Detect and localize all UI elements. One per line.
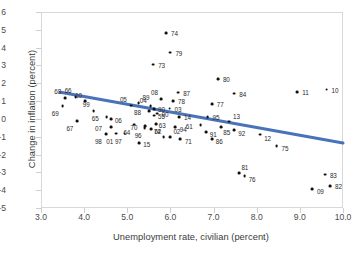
data-point-label: 99 [83, 101, 90, 108]
data-point-label: 85 [223, 128, 230, 135]
data-point [162, 136, 165, 139]
data-point-label: 67 [66, 125, 73, 132]
data-point-label: 01 [106, 137, 113, 144]
data-point [92, 110, 95, 113]
data-point-label: 61 [186, 123, 193, 130]
data-point [144, 125, 147, 128]
data-point [149, 105, 152, 108]
data-point [329, 185, 332, 188]
data-point-label: 70 [131, 124, 138, 131]
data-point-label: 91 [210, 130, 217, 137]
data-point-label: 08 [151, 88, 158, 95]
data-point-label: 78 [178, 97, 185, 104]
data-point [259, 133, 262, 136]
data-point [105, 116, 108, 119]
data-point [64, 97, 67, 100]
data-point [109, 118, 112, 121]
data-point [220, 126, 223, 129]
data-point-label: 65 [92, 115, 99, 122]
data-point [275, 145, 278, 148]
data-point-label: 98 [95, 138, 102, 145]
data-point-label: 87 [183, 89, 190, 96]
data-point-label: 11 [302, 88, 308, 95]
data-point-label: 77 [217, 101, 224, 108]
data-point [129, 104, 132, 107]
data-point-label: 07 [95, 124, 102, 131]
data-point [154, 122, 157, 125]
data-point [169, 51, 172, 54]
data-point [138, 142, 141, 145]
data-point-label: 96 [135, 132, 142, 139]
data-point-label: 73 [158, 61, 165, 68]
data-point-label: 81 [241, 163, 248, 170]
data-point [104, 133, 107, 136]
data-point [169, 135, 172, 138]
data-point [210, 137, 213, 140]
data-point [172, 99, 175, 102]
data-point [204, 130, 207, 133]
data-point [61, 105, 64, 108]
data-point [210, 103, 213, 106]
data-point [311, 187, 314, 190]
data-point [233, 129, 236, 132]
data-point-label: 03 [175, 105, 182, 112]
data-point-label: 12 [264, 134, 271, 141]
data-point-label: 09 [317, 187, 324, 194]
data-point-label: 95 [213, 113, 220, 120]
data-point-label: 05 [120, 95, 127, 102]
data-point-label: 13 [233, 112, 240, 119]
data-point-label: 97 [115, 137, 122, 144]
data-point [115, 132, 118, 135]
data-point-label: 86 [216, 137, 223, 144]
data-point-label: 79 [175, 49, 182, 56]
data-point [325, 88, 328, 91]
data-point-label: 84 [239, 90, 246, 97]
data-point-label: 83 [330, 171, 337, 178]
data-point [76, 120, 79, 123]
data-point [109, 126, 112, 129]
data-point [153, 108, 156, 111]
data-point-label: 71 [185, 137, 192, 144]
data-point [238, 171, 241, 174]
data-point-label: 04 [140, 97, 147, 104]
data-point-label: 80 [223, 76, 230, 83]
data-point-label: 02 [173, 127, 180, 134]
data-point [152, 63, 155, 66]
data-point [323, 173, 326, 176]
data-point-label: 74 [171, 30, 178, 37]
data-point-label: 92 [238, 130, 245, 137]
data-point [243, 175, 246, 178]
data-point [296, 90, 299, 93]
data-point-label: 10 [332, 86, 339, 93]
data-point-label: 74 [154, 128, 161, 135]
data-point [160, 98, 163, 101]
data-point-label: 06 [115, 117, 122, 124]
data-point [179, 137, 182, 140]
data-point-label: 82 [335, 183, 342, 190]
data-point [153, 114, 156, 117]
data-point [228, 120, 231, 123]
data-point-label: 15 [143, 141, 150, 148]
data-point [199, 124, 202, 127]
data-point [206, 115, 209, 118]
data-point-label: 66 [65, 87, 72, 94]
data-point [168, 107, 171, 110]
data-point-label: 68 [54, 88, 61, 95]
data-point-label: 88 [134, 109, 141, 116]
data-point-label: 14 [184, 113, 191, 120]
data-point [165, 32, 168, 35]
data-point [150, 128, 153, 131]
data-point [178, 115, 181, 118]
data-point [233, 92, 236, 95]
data-point-label: 75 [282, 144, 289, 151]
data-point-label: 55 [158, 112, 165, 119]
data-point-label: 76 [249, 176, 256, 183]
data-point [216, 78, 219, 81]
data-point-label: 64 [123, 128, 130, 135]
data-point-label: 10 [75, 91, 82, 98]
data-point [147, 110, 150, 113]
data-point [177, 91, 180, 94]
data-point-label: 69 [52, 110, 59, 117]
